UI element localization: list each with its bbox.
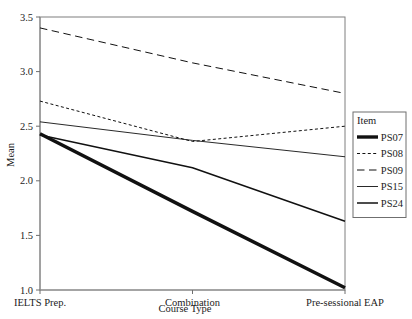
legend-label-PS15: PS15 [381, 181, 403, 192]
legend: ItemPS07PS08PS09PS15PS24 [353, 112, 406, 218]
legend-label-PS08: PS08 [381, 148, 403, 159]
x-axis-title: Course Type [158, 303, 211, 314]
series-line-PS07 [40, 134, 345, 288]
y-axis-title: Mean [5, 142, 16, 167]
plot-frame [40, 17, 345, 290]
x-category-label: Pre-sessional EAP [306, 297, 384, 308]
y-tick-label: 2.0 [20, 175, 33, 186]
y-tick-label: 1.0 [20, 285, 33, 296]
series-line-PS15 [40, 122, 345, 157]
y-tick-label: 1.5 [20, 230, 33, 241]
y-tick-label: 2.5 [20, 121, 33, 132]
series-line-PS08 [40, 101, 345, 141]
series-line-PS09 [40, 28, 345, 94]
y-tick-label: 3.5 [20, 12, 33, 23]
y-axis-tick-labels: 1.01.52.02.53.03.5 [20, 12, 33, 296]
line-chart: 1.01.52.02.53.03.5 IELTS Prep.Combinatio… [0, 0, 412, 319]
series-line-PS24 [40, 135, 345, 221]
plot-border [40, 17, 345, 290]
y-tick-label: 3.0 [20, 66, 33, 77]
series-lines [40, 28, 345, 288]
legend-label-PS07: PS07 [381, 132, 403, 143]
chart-svg: 1.01.52.02.53.03.5 IELTS Prep.Combinatio… [0, 0, 412, 319]
x-category-label: IELTS Prep. [14, 297, 66, 308]
legend-title: Item [357, 115, 376, 126]
legend-label-PS09: PS09 [381, 165, 403, 176]
legend-label-PS24: PS24 [381, 198, 404, 209]
